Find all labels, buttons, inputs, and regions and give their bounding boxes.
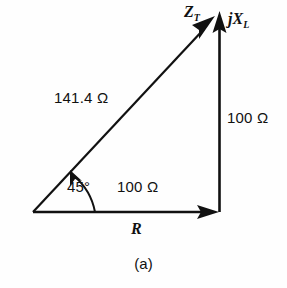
impedance-vector-label: ZT	[184, 4, 200, 23]
reactance-symbol: jX	[228, 10, 243, 27]
resistance-symbol: R	[131, 220, 142, 237]
figure-caption: (a)	[0, 256, 287, 271]
resistance-axis-label: R	[131, 221, 142, 237]
reactance-vector	[213, 11, 227, 212]
impedance-symbol: Z	[184, 3, 194, 20]
reactance-axis-label: jXL	[228, 11, 249, 30]
impedance-triangle-diagram	[0, 0, 287, 288]
impedance-subscript: T	[194, 12, 200, 23]
angle-value-label: 45°	[67, 179, 90, 194]
hypotenuse-value-label: 141.4 Ω	[54, 90, 108, 105]
reactance-value-label: 100 Ω	[227, 110, 268, 125]
impedance-triangle-figure: ZT jXL 141.4 Ω 100 Ω 45° 100 Ω R (a)	[0, 0, 287, 288]
resistance-value-label: 100 Ω	[117, 179, 158, 194]
resistance-vector	[33, 205, 219, 219]
reactance-subscript: L	[243, 19, 249, 30]
